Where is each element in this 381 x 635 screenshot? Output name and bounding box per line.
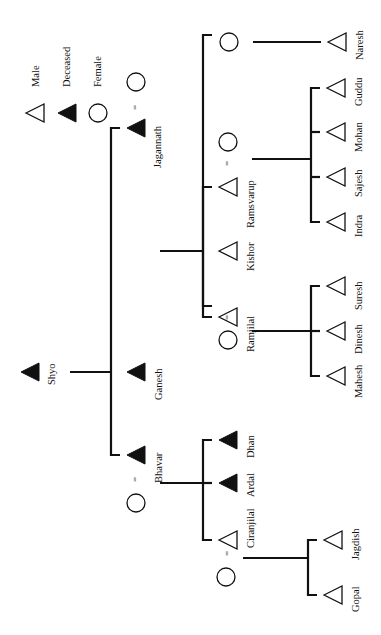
sibling-bracket [311,88,320,222]
svg-text:Ramsvarup: Ramsvarup [245,180,256,228]
person-dinesh: Dinesh [327,322,364,354]
person-naresh: Naresh [328,30,365,60]
svg-text:Kishor: Kishor [245,242,256,271]
svg-text:Sajesh: Sajesh [353,169,364,197]
svg-text:Bhavar: Bhavar [153,452,164,483]
male-icon [327,123,345,141]
person-kishor: Kishor [219,242,256,271]
person-gopal: Gopal [324,586,361,612]
female-icon-ramjilal-wife [219,331,237,349]
person-ganesh: Ganesh [127,363,164,400]
legend-label-male: Male [30,65,41,87]
sibling-bracket [111,128,120,455]
male-icon [327,277,345,295]
person-ardal: Ardal [219,473,256,497]
svg-text:Ramjilal: Ramjilal [245,316,256,352]
person-mahesh: Mahesh [327,364,364,398]
svg-text:Mohan: Mohan [353,122,364,152]
person-guddu: Guddu [327,77,364,106]
svg-text:Mahesh: Mahesh [353,364,364,398]
male-icon [324,586,342,604]
marriage-symbol: = [222,161,232,166]
deceased-male-icon [127,363,145,381]
marriage-symbol: = [130,477,140,482]
person-indra: Indra [327,213,364,237]
deceased-legend-icon [58,104,76,122]
svg-text:Ganesh: Ganesh [153,368,164,400]
female-icon-naresh-mother [220,33,238,51]
deceased-male-icon [219,474,237,492]
deceased-male-icon [127,119,145,137]
person-jagannath: Jagannath [127,119,163,168]
svg-text:Shyo: Shyo [46,363,57,385]
male-icon [327,79,345,97]
person-mohan: Mohan [327,122,364,152]
svg-text:Ardal: Ardal [245,473,256,497]
female-legend-icon [89,104,107,122]
male-legend-icon [26,104,44,122]
person-ciranjilal: Ciranjilal [219,508,256,549]
marriage-symbol: = [130,105,140,110]
svg-text:Jagdish: Jagdish [350,528,361,560]
person-dhan: Dhan [219,431,256,458]
female-icon-bhavar-wife [127,494,145,512]
svg-text:Indra: Indra [353,215,364,237]
person-ramsvarup: Ramsvarup [219,178,256,228]
kinship-diagram: Male Deceased Female Shyo Jagannath = Ga… [0,0,381,635]
person-suresh: Suresh [327,277,364,310]
female-icon-ciranjilal-wife [217,568,235,586]
person-sajesh: Sajesh [327,168,364,197]
legend-label-deceased: Deceased [61,46,72,87]
svg-text:Dinesh: Dinesh [353,324,364,354]
male-icon [328,33,346,51]
svg-text:Naresh: Naresh [354,30,365,60]
male-icon [327,367,345,385]
male-icon [219,178,237,196]
sibling-bracket [203,187,212,317]
deceased-male-icon [127,446,145,464]
sibling-bracket [203,440,212,540]
legend-label-female: Female [92,56,103,87]
svg-text:Jagannath: Jagannath [152,125,163,168]
svg-text:Suresh: Suresh [353,281,364,310]
male-icon [219,242,237,260]
male-icon [327,213,345,231]
sibling-bracket [203,35,212,306]
male-icon [219,531,237,549]
deceased-male-icon [21,363,39,381]
female-icon-ramsvarup-wife [219,133,237,151]
female-icon-jagannath-wife [127,73,145,91]
sibling-bracket [308,540,317,595]
svg-text:Guddu: Guddu [353,77,364,106]
marriage-symbol: = [222,315,232,320]
deceased-male-icon [219,431,237,449]
legend: Male Deceased Female [26,46,107,122]
marriage-symbol: = [222,551,232,556]
svg-text:Gopal: Gopal [350,586,361,612]
svg-text:Ciranjilal: Ciranjilal [245,508,256,548]
person-jagdish: Jagdish [324,528,361,560]
male-icon [327,322,345,340]
male-icon [324,531,342,549]
person-shyo: Shyo [21,363,57,385]
svg-text:Dhan: Dhan [245,435,256,458]
male-icon [327,168,345,186]
